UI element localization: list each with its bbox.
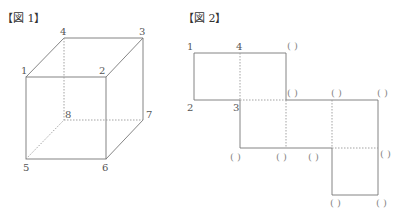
cube-vertex-labels: 1 2 3 4 5 6 7 8 [21, 26, 152, 173]
blank-answer: ( ) [330, 197, 341, 208]
cube-label-8: 8 [65, 109, 71, 120]
cube-label-4: 4 [60, 26, 66, 37]
cube-label-2: 2 [99, 65, 105, 76]
blank-answer: ( ) [331, 87, 342, 98]
blank-answer: ( ) [230, 151, 241, 162]
diagram-canvas: 1 2 3 4 5 6 7 8 1 4 2 3 ( ) ( ) ( ) ( ) … [0, 0, 407, 219]
cube-label-7: 7 [146, 109, 152, 120]
net-vertex-labels: 1 4 2 3 [187, 41, 242, 113]
cube-label-1: 1 [21, 65, 27, 76]
cube-label-6: 6 [102, 162, 108, 173]
blank-answer: ( ) [380, 148, 391, 159]
blank-answer: ( ) [287, 40, 298, 51]
cube-figure [26, 38, 143, 159]
net-label-2: 2 [187, 102, 193, 113]
cube-edge-2-3 [106, 38, 143, 77]
net-label-1: 1 [187, 41, 193, 52]
net-label-4: 4 [236, 41, 242, 52]
blank-answer: ( ) [376, 197, 387, 208]
blank-answer: ( ) [308, 151, 319, 162]
cube-label-3: 3 [139, 26, 145, 37]
net-fold-lines [240, 53, 378, 148]
net-blank-labels: ( ) ( ) ( ) ( ) ( ) ( ) ( ) ( ) ( ) ( ) [230, 40, 391, 208]
cube-hidden-edge-5-8 [26, 120, 64, 159]
blank-answer: ( ) [377, 87, 388, 98]
cube-edge-1-4 [26, 38, 64, 77]
cube-net [194, 53, 378, 195]
net-label-3: 3 [233, 102, 239, 113]
cube-label-5: 5 [23, 162, 29, 173]
cube-edge-6-7 [106, 120, 143, 159]
blank-answer: ( ) [287, 87, 298, 98]
blank-answer: ( ) [276, 151, 287, 162]
